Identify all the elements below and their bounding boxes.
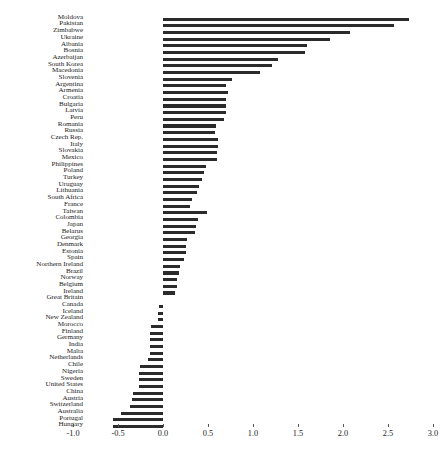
bar xyxy=(163,145,218,148)
bar xyxy=(163,171,204,174)
bar xyxy=(163,78,232,81)
bar xyxy=(151,325,163,328)
bar xyxy=(113,425,163,428)
bar xyxy=(163,211,207,214)
bar xyxy=(163,71,260,74)
bar xyxy=(163,238,187,241)
x-tick-mark xyxy=(298,424,299,427)
bar xyxy=(163,231,195,234)
plot-area: MoldovaPakistanZimbabweUkraineAlbaniaBos… xyxy=(0,0,438,430)
bar xyxy=(163,104,226,107)
x-tick-mark xyxy=(73,424,74,427)
bar xyxy=(163,251,186,254)
bar xyxy=(163,18,409,21)
x-tick-label: 2.5 xyxy=(368,429,408,438)
bar xyxy=(163,271,179,274)
bar xyxy=(163,124,216,127)
bar xyxy=(163,191,197,194)
bar xyxy=(163,265,180,268)
bar xyxy=(163,58,278,61)
bar xyxy=(139,385,163,388)
x-tick-label: 2.0 xyxy=(323,429,363,438)
bar xyxy=(163,225,196,228)
bar xyxy=(163,84,226,87)
x-tick-mark xyxy=(388,424,389,427)
bar xyxy=(130,405,163,408)
bar xyxy=(163,118,224,121)
bar xyxy=(163,185,199,188)
bar xyxy=(163,278,177,281)
x-tick-label: -0.5 xyxy=(98,429,138,438)
bar xyxy=(163,91,228,94)
bar xyxy=(163,131,215,134)
bar xyxy=(163,165,206,168)
bar xyxy=(163,158,217,161)
bar xyxy=(163,291,175,294)
bar xyxy=(163,38,330,41)
bar xyxy=(163,24,394,27)
bar xyxy=(150,352,164,355)
bar xyxy=(150,345,164,348)
bar xyxy=(113,418,163,421)
bar xyxy=(163,44,307,47)
x-tick-mark xyxy=(208,424,209,427)
x-tick-mark xyxy=(163,424,164,427)
bar xyxy=(163,64,272,67)
bar xyxy=(163,111,226,114)
bar xyxy=(163,198,192,201)
x-tick-label: 1.5 xyxy=(278,429,318,438)
bar xyxy=(163,51,305,54)
bar xyxy=(121,412,163,415)
bar xyxy=(163,285,177,288)
x-tick-mark xyxy=(433,424,434,427)
x-tick-label: 0.5 xyxy=(188,429,228,438)
x-tick-label: 1.0 xyxy=(233,429,273,438)
bar xyxy=(132,398,164,401)
bar xyxy=(163,98,226,101)
bar xyxy=(163,245,186,248)
bar xyxy=(163,138,218,141)
bar xyxy=(158,318,163,321)
bar xyxy=(163,178,202,181)
bar xyxy=(163,31,350,34)
bar xyxy=(163,258,184,261)
bar xyxy=(150,338,164,341)
bar xyxy=(148,358,163,361)
bar xyxy=(163,205,190,208)
x-axis: -1.0-0.50.00.51.01.52.02.53.0 xyxy=(0,424,438,425)
bar xyxy=(163,151,217,154)
bar xyxy=(159,305,164,308)
bar xyxy=(139,372,163,375)
x-tick-mark xyxy=(253,424,254,427)
bar xyxy=(139,378,163,381)
bar xyxy=(163,218,198,221)
x-tick-mark xyxy=(343,424,344,427)
bar xyxy=(140,365,163,368)
x-tick-label: -1.0 xyxy=(53,429,93,438)
x-tick-label: 0.0 xyxy=(143,429,183,438)
bar xyxy=(158,312,163,315)
bar xyxy=(150,332,164,335)
bar xyxy=(133,392,163,395)
x-tick-mark xyxy=(118,424,119,427)
x-tick-label: 3.0 xyxy=(413,429,443,438)
